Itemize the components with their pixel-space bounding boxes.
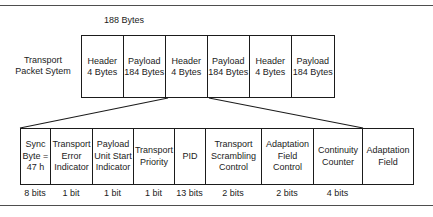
header-field-cell: Sync Byte = 47 h: [21, 129, 51, 184]
packet-cell-header: Header4 Bytes: [250, 36, 292, 97]
bit-size-label: 1 bit: [92, 187, 133, 200]
header-field-label: Adaptation Field Control: [266, 139, 309, 174]
top-divider-rule: [0, 5, 433, 6]
packet-cell-size: 184 Bytes: [293, 67, 333, 78]
packet-cell-payload: Payload184 Bytes: [124, 36, 166, 97]
header-field-cell: Payload Unit Start Indicator: [93, 129, 134, 184]
bit-size-label: 4 bits: [313, 187, 362, 200]
bit-size-label: 1 bit: [50, 187, 92, 200]
header-field-cell: Transport Priority: [134, 129, 175, 184]
connector-line-left: [20, 98, 168, 128]
packet-cell-payload: Payload184 Bytes: [208, 36, 250, 97]
packet-cell-title: Header: [172, 56, 202, 67]
packet-cell-title: Header: [88, 56, 118, 67]
header-field-cell: Adaptation Field Control: [262, 129, 314, 184]
header-field-label: Transport Scrambling Control: [211, 139, 256, 174]
header-field-cell: Continuity Counter: [314, 129, 363, 184]
header-field-cell: Transport Scrambling Control: [206, 129, 262, 184]
transport-packet-diagram: 188 Bytes TransportPacket Sytem Header4 …: [0, 0, 433, 217]
header-field-label: Payload Unit Start Indicator: [94, 139, 132, 174]
packet-cell-payload: Payload184 Bytes: [292, 36, 334, 97]
packet-cell-header: Header4 Bytes: [82, 36, 124, 97]
header-field-label: Adaptation Field: [366, 145, 409, 168]
packet-cell-size: 184 Bytes: [208, 67, 248, 78]
packet-cell-header: Header4 Bytes: [166, 36, 208, 97]
bit-size-label: [362, 187, 412, 200]
bit-size-label: 2 bits: [205, 187, 261, 200]
packet-caption: TransportPacket Sytem: [8, 55, 78, 77]
bit-size-label: 8 bits: [20, 187, 50, 200]
bit-size-labels-row: 8 bits1 bit1 bit1 bit13 bits2 bits2 bits…: [20, 187, 414, 200]
header-field-cell: Adaptation Field: [363, 129, 413, 184]
bottom-divider-rule: [0, 205, 433, 206]
header-field-label: Transport Priority: [135, 145, 173, 168]
packet-caption-line: Transport: [8, 55, 78, 66]
packet-cell-size: 4 Bytes: [87, 67, 117, 78]
packet-cell-title: Header: [256, 56, 286, 67]
packet-cell-title: Payload: [296, 56, 329, 67]
header-field-cell: Transport Error Indicator: [51, 129, 93, 184]
bit-size-label: 1 bit: [133, 187, 174, 200]
connector-line-right: [209, 98, 363, 128]
dimension-label: 188 Bytes: [78, 13, 170, 27]
header-field-label: Transport Error Indicator: [52, 139, 90, 174]
packet-cell-size: 4 Bytes: [255, 67, 285, 78]
header-field-label: Sync Byte = 47 h: [23, 139, 49, 174]
bit-size-label: 2 bits: [261, 187, 313, 200]
bit-size-label: 13 bits: [174, 187, 205, 200]
header-field-label: PID: [182, 151, 197, 163]
packet-size-dimension-arrow: 188 Bytes: [78, 13, 170, 29]
header-field-cell: PID: [175, 129, 206, 184]
header-fields-row: Sync Byte = 47 hTransport Error Indicato…: [20, 128, 414, 185]
transport-packet-row: Header4 BytesPayload184 BytesHeader4 Byt…: [81, 35, 335, 98]
packet-cell-title: Payload: [128, 56, 161, 67]
packet-cell-size: 184 Bytes: [124, 67, 164, 78]
packet-cell-size: 4 Bytes: [171, 67, 201, 78]
packet-cell-title: Payload: [212, 56, 245, 67]
header-field-label: Continuity Counter: [318, 145, 358, 168]
packet-caption-line: Packet Sytem: [8, 66, 78, 77]
